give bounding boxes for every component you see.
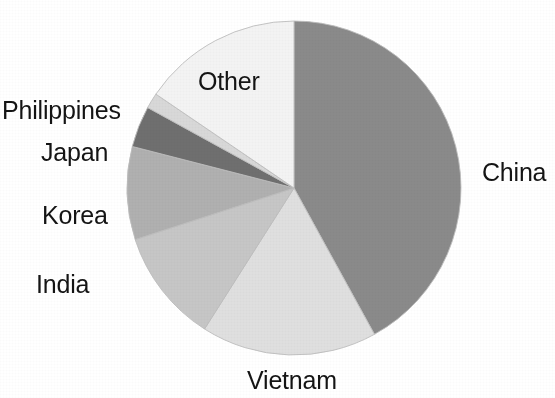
pie-slice-group — [127, 21, 461, 355]
pie-label-korea: Korea — [42, 203, 108, 228]
pie-chart: China Vietnam India Korea Japan Philippi… — [0, 0, 555, 398]
pie-label-other: Other — [198, 69, 260, 94]
pie-chart-canvas — [0, 0, 555, 398]
pie-label-philippines: Philippines — [2, 98, 121, 123]
pie-label-india: India — [36, 272, 89, 297]
pie-label-vietnam: Vietnam — [247, 368, 337, 393]
pie-label-japan: Japan — [41, 140, 108, 165]
pie-label-china: China — [482, 160, 546, 185]
